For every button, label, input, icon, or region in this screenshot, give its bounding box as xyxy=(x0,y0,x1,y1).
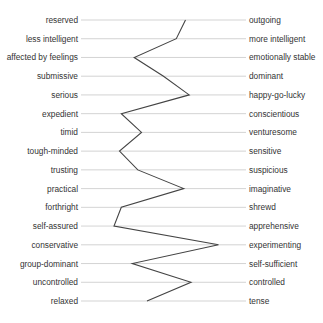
right-trait-label: dominant xyxy=(249,71,283,81)
right-trait-label: self-sufficient xyxy=(249,259,297,269)
left-trait-label: conservative xyxy=(31,240,78,250)
left-trait-label: forthright xyxy=(45,202,78,212)
left-trait-label: reserved xyxy=(46,15,78,25)
right-trait-label: venturesome xyxy=(249,127,297,137)
right-trait-label: imaginative xyxy=(249,184,291,194)
gridlines xyxy=(81,20,246,301)
left-trait-label: less intelligent xyxy=(26,34,78,44)
left-trait-label: submissive xyxy=(37,71,78,81)
right-trait-label: more intelligent xyxy=(249,34,305,44)
right-trait-label: suspicious xyxy=(249,165,288,175)
left-trait-label: expedient xyxy=(42,109,78,119)
left-trait-label: uncontrolled xyxy=(33,277,78,287)
right-trait-label: happy-go-lucky xyxy=(249,90,305,100)
right-trait-label: tense xyxy=(249,296,269,306)
left-trait-label: serious xyxy=(51,90,78,100)
left-trait-label: tough-minded xyxy=(27,146,78,156)
right-trait-label: emotionally stable xyxy=(249,52,315,62)
right-trait-label: experimenting xyxy=(249,240,301,250)
profile-chart xyxy=(0,0,323,323)
right-trait-label: conscientious xyxy=(249,109,299,119)
left-trait-label: timid xyxy=(60,127,78,137)
left-trait-label: practical xyxy=(47,184,78,194)
left-trait-label: group-dominant xyxy=(20,259,78,269)
left-trait-label: relaxed xyxy=(51,296,78,306)
right-trait-label: apprehensive xyxy=(249,221,299,231)
right-trait-label: sensitive xyxy=(249,146,281,156)
right-trait-label: outgoing xyxy=(249,15,281,25)
left-trait-label: trusting xyxy=(51,165,78,175)
left-trait-label: self-assured xyxy=(33,221,78,231)
profile-line xyxy=(114,20,219,301)
left-trait-label: affected by feelings xyxy=(7,52,78,62)
right-trait-label: controlled xyxy=(249,277,285,287)
right-trait-label: shrewd xyxy=(249,202,276,212)
